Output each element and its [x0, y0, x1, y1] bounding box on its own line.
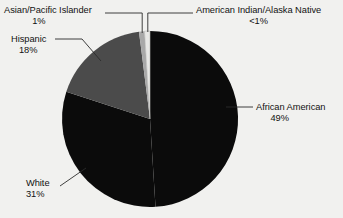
- pie-label-african-american-name: African American: [256, 102, 325, 113]
- pie-label-white-percent: 31%: [26, 189, 50, 200]
- pie-label-white-name: White: [26, 178, 50, 189]
- pie-label-asian-pacific-islander: Asian/Pacific Islander 1%: [4, 5, 92, 27]
- pie-label-hispanic-name: Hispanic: [11, 34, 46, 45]
- pie-label-hispanic: Hispanic 18%: [11, 34, 46, 56]
- pie-label-american-indian-alaska-native-percent: <1%: [196, 16, 321, 27]
- pie-label-hispanic-percent: 18%: [11, 45, 46, 56]
- pie-label-african-american: African American 49%: [256, 102, 325, 124]
- pie-label-american-indian-alaska-native-name: American Indian/Alaska Native: [196, 5, 321, 16]
- pie-label-african-american-percent: 49%: [256, 113, 325, 124]
- pie-label-white: White 31%: [26, 178, 50, 200]
- pie-label-asian-pacific-islander-name: Asian/Pacific Islander: [4, 5, 92, 16]
- pie-chart-screenshot: Asian/Pacific Islander 1% Hispanic 18% A…: [0, 0, 343, 218]
- pie-label-american-indian-alaska-native: American Indian/Alaska Native <1%: [196, 5, 321, 27]
- pie-label-asian-pacific-islander-percent: 1%: [4, 16, 92, 27]
